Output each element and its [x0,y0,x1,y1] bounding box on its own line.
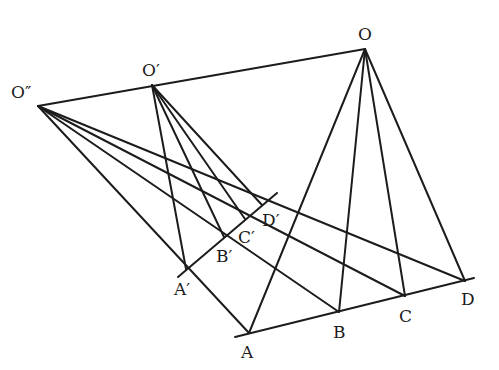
base-line-abcd [235,278,474,337]
ray-o1-d1 [152,85,262,205]
label-b-prime: B′ [216,246,232,266]
label-c-prime: C′ [238,227,255,247]
label-a-prime: A′ [173,279,190,299]
perspectivity-diagram: O O′ O″ A B C D A′ B′ C′ D′ [0,0,499,370]
ray-o2-a [38,106,249,333]
label-a: A [240,342,254,362]
label-o-prime: O′ [142,60,160,80]
label-c: C [399,306,412,326]
ray-o1-c1 [152,85,245,219]
ray-o1-b1 [152,85,224,237]
ray-o1-a1 [152,85,186,269]
ray-o-c [365,49,405,296]
label-o-double-prime: O″ [11,82,31,102]
label-o: O [358,24,372,44]
label-d: D [461,289,475,309]
rays-from-o-double-prime [38,106,465,333]
center-axis-line [38,49,365,106]
label-d-prime: D′ [262,210,280,230]
label-b: B [333,322,346,342]
point-labels: O O′ O″ A B C D A′ B′ C′ D′ [11,24,475,362]
rays-from-o [249,49,465,333]
